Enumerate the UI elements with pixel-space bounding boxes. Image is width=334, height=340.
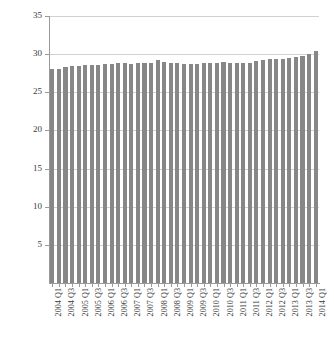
bar[interactable] bbox=[261, 60, 265, 283]
x-axis-tick-mark bbox=[65, 283, 66, 287]
bar[interactable] bbox=[136, 63, 140, 283]
y-axis-tick-mark bbox=[45, 130, 50, 131]
bar[interactable] bbox=[70, 66, 74, 283]
bar[interactable] bbox=[96, 65, 100, 283]
x-axis-tick-label: 2009 Q1 bbox=[187, 288, 195, 340]
x-axis-tick-label: 2010 Q1 bbox=[213, 288, 221, 340]
x-axis-tick-label: 2013 Q1 bbox=[292, 288, 300, 340]
x-axis-tick-mark bbox=[158, 283, 159, 287]
bar[interactable] bbox=[248, 63, 252, 283]
x-axis-tick-mark bbox=[283, 283, 284, 287]
y-axis-tick-label: 20 bbox=[18, 125, 42, 134]
bar[interactable] bbox=[268, 59, 272, 283]
x-axis-tick-mark bbox=[118, 283, 119, 287]
x-axis-tick-mark bbox=[230, 283, 231, 287]
bar[interactable] bbox=[50, 69, 54, 283]
bar[interactable] bbox=[189, 64, 193, 283]
bar[interactable] bbox=[215, 63, 219, 283]
bar[interactable] bbox=[175, 63, 179, 283]
bar[interactable] bbox=[129, 64, 133, 283]
x-axis-tick-label: 2011 Q1 bbox=[240, 288, 248, 340]
x-axis-tick-mark bbox=[256, 283, 257, 287]
x-axis-tick-label: 2004 Q1 bbox=[55, 288, 63, 340]
bar[interactable] bbox=[63, 67, 67, 283]
x-axis-tick-label: 2006 Q1 bbox=[108, 288, 116, 340]
bar[interactable] bbox=[162, 62, 166, 283]
y-axis-tick-mark bbox=[45, 16, 50, 17]
bar[interactable] bbox=[287, 58, 291, 283]
bar[interactable] bbox=[274, 59, 278, 283]
y-axis-tick-label: 35 bbox=[18, 11, 42, 20]
bar[interactable] bbox=[123, 63, 127, 283]
x-axis-tick-mark bbox=[309, 283, 310, 287]
x-axis-tick-label: 2006 Q3 bbox=[121, 288, 129, 340]
x-axis-tick-mark bbox=[171, 283, 172, 287]
x-axis-tick-mark bbox=[250, 283, 251, 287]
y-axis-tick-label: 15 bbox=[18, 164, 42, 173]
y-axis-tick-label: 10 bbox=[18, 202, 42, 211]
y-axis-tick-mark bbox=[45, 169, 50, 170]
x-axis-tick-label: 2005 Q1 bbox=[82, 288, 90, 340]
employment-bar-chart: numbers in employment (millions) 5101520… bbox=[0, 0, 334, 340]
bar[interactable] bbox=[221, 62, 225, 283]
x-axis-tick-mark bbox=[52, 283, 53, 287]
bar[interactable] bbox=[294, 57, 298, 283]
bar[interactable] bbox=[142, 63, 146, 283]
y-axis-tick-label: 25 bbox=[18, 87, 42, 96]
bar[interactable] bbox=[228, 63, 232, 283]
y-axis-tick-mark bbox=[45, 54, 50, 55]
bar[interactable] bbox=[235, 63, 239, 283]
y-axis-tick-label: 5 bbox=[18, 240, 42, 249]
bar[interactable] bbox=[182, 64, 186, 283]
bar[interactable] bbox=[202, 63, 206, 283]
x-axis-tick-label: 2009 Q3 bbox=[200, 288, 208, 340]
bar[interactable] bbox=[169, 63, 173, 283]
x-axis-tick-mark bbox=[59, 283, 60, 287]
y-axis-tick-mark bbox=[45, 245, 50, 246]
bar[interactable] bbox=[281, 59, 285, 283]
bar[interactable] bbox=[241, 63, 245, 283]
bar[interactable] bbox=[208, 63, 212, 283]
x-axis-tick-mark bbox=[217, 283, 218, 287]
bar[interactable] bbox=[314, 51, 318, 283]
bar[interactable] bbox=[77, 66, 81, 283]
x-axis-tick-label: 2004 Q3 bbox=[68, 288, 76, 340]
bar[interactable] bbox=[195, 64, 199, 283]
x-axis-tick-label: 2005 Q3 bbox=[95, 288, 103, 340]
x-axis-tick-mark bbox=[263, 283, 264, 287]
x-axis-tick-label: 2008 Q3 bbox=[174, 288, 182, 340]
x-axis-tick-mark bbox=[197, 283, 198, 287]
bar[interactable] bbox=[149, 63, 153, 283]
bar[interactable] bbox=[103, 64, 107, 283]
x-axis-tick-mark bbox=[131, 283, 132, 287]
bar[interactable] bbox=[300, 56, 304, 283]
x-axis-tick-mark bbox=[144, 283, 145, 287]
x-axis-tick-mark bbox=[191, 283, 192, 287]
x-axis-tick-label: 2007 Q1 bbox=[134, 288, 142, 340]
bars-layer bbox=[49, 16, 319, 283]
x-axis-tick-mark bbox=[296, 283, 297, 287]
bar[interactable] bbox=[110, 64, 114, 283]
x-axis-tick-mark bbox=[177, 283, 178, 287]
x-axis-tick-mark bbox=[164, 283, 165, 287]
x-axis-tick-mark bbox=[85, 283, 86, 287]
bar[interactable] bbox=[116, 63, 120, 283]
x-axis-tick-mark bbox=[112, 283, 113, 287]
x-axis-tick-mark bbox=[316, 283, 317, 287]
bar[interactable] bbox=[156, 60, 160, 283]
x-axis-tick-mark bbox=[243, 283, 244, 287]
x-axis-tick-mark bbox=[92, 283, 93, 287]
x-axis-tick-label: 2011 Q3 bbox=[253, 288, 261, 340]
x-axis-tick-mark bbox=[72, 283, 73, 287]
x-axis-tick-mark bbox=[184, 283, 185, 287]
bar[interactable] bbox=[90, 65, 94, 283]
bar[interactable] bbox=[83, 65, 87, 283]
x-axis-tick-label: 2007 Q3 bbox=[147, 288, 155, 340]
bar[interactable] bbox=[254, 61, 258, 283]
x-axis-tick-mark bbox=[210, 283, 211, 287]
bar[interactable] bbox=[57, 69, 61, 283]
x-axis-tick-label: 2010 Q3 bbox=[227, 288, 235, 340]
x-axis-tick-label: 2012 Q3 bbox=[279, 288, 287, 340]
bar[interactable] bbox=[307, 54, 311, 283]
x-axis-tick-label: 2008 Q1 bbox=[161, 288, 169, 340]
